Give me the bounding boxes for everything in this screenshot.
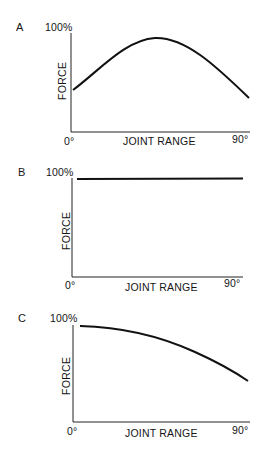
x-end-label: 90°: [232, 134, 248, 145]
y-axis-label: FORCE: [61, 212, 72, 250]
x-axis-label: JOINT RANGE: [125, 428, 198, 439]
x-end-label: 90°: [224, 278, 240, 289]
x-start-label: 0°: [64, 136, 74, 147]
x-axis-label: JOINT RANGE: [125, 282, 198, 293]
panel-a: A 100% FORCE 0° JOINT RANGE 90°: [0, 0, 266, 150]
x-start-label: 0°: [67, 426, 77, 437]
force-curve: [73, 38, 249, 98]
chart-a-plot: [0, 0, 266, 150]
panel-letter: B: [18, 167, 26, 178]
panel-letter: C: [18, 313, 26, 324]
y-top-label: 100%: [45, 22, 73, 33]
y-top-label: 100%: [46, 167, 74, 178]
y-axis-label: FORCE: [61, 357, 72, 395]
force-curve: [80, 326, 248, 381]
y-top-label: 100%: [50, 313, 78, 324]
y-axis-label: FORCE: [57, 62, 68, 100]
force-curve: [77, 179, 243, 180]
panel-letter: A: [16, 22, 24, 33]
panel-c: C 100% FORCE 0° JOINT RANGE 90°: [0, 300, 266, 455]
x-axis-label: JOINT RANGE: [123, 136, 196, 147]
x-start-label: 0°: [65, 280, 75, 291]
panel-b: B 100% FORCE 0° JOINT RANGE 90°: [0, 150, 266, 300]
x-end-label: 90°: [232, 425, 248, 436]
